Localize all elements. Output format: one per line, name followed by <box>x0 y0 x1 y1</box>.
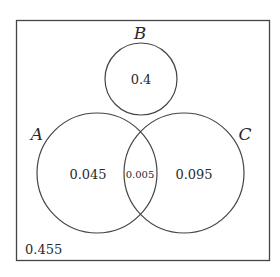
label-a: A <box>29 124 43 144</box>
label-c: C <box>238 124 251 144</box>
label-b: B <box>133 23 147 43</box>
value-b-only: 0.4 <box>131 72 152 87</box>
value-a-and-c: 0.005 <box>126 169 155 180</box>
value-a-only: 0.045 <box>69 167 106 182</box>
value-c-only: 0.095 <box>175 167 212 182</box>
universe-rectangle <box>17 21 270 261</box>
venn-diagram: B A C 0.4 0.045 0.005 0.095 0.455 <box>0 0 280 277</box>
value-outside: 0.455 <box>25 242 62 257</box>
